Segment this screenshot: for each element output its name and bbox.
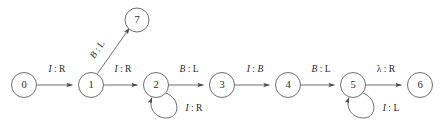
state-label-5: 5 (350, 79, 355, 90)
edge-label-1-to-2: I : R (114, 64, 133, 74)
state-node-5[interactable]: 5 (341, 73, 366, 98)
edge-label-0-to-1: I : R (48, 64, 67, 74)
state-label-3: 3 (219, 79, 224, 90)
automaton-canvas: 0 1 2 3 4 5 6 (0, 0, 447, 122)
edge-label-2-self-loop: I : R (185, 103, 204, 113)
state-label-1: 1 (88, 79, 93, 90)
edge-label-2-to-3: B : L (179, 64, 198, 74)
state-label-0: 0 (21, 79, 26, 90)
edge-label-4-to-5: B : L (311, 64, 330, 74)
states-layer: 0 1 2 3 4 5 6 (12, 8, 433, 98)
state-node-6[interactable]: 6 (408, 73, 433, 98)
edge-label-5-self-loop: I : L (382, 103, 400, 113)
state-node-2[interactable]: 2 (144, 73, 169, 98)
state-node-3[interactable]: 3 (210, 73, 235, 98)
edge-label-1-to-7: B : L (88, 39, 107, 60)
state-node-1[interactable]: 1 (79, 73, 104, 98)
state-label-2: 2 (153, 79, 158, 90)
state-label-6: 6 (417, 79, 422, 90)
state-label-4: 4 (285, 79, 291, 90)
edge-label-5-to-6: λ : R (377, 64, 396, 74)
state-node-0[interactable]: 0 (12, 73, 37, 98)
state-node-4[interactable]: 4 (276, 73, 301, 98)
state-diagram: 0 1 2 3 4 5 6 (0, 0, 447, 122)
edge-label-3-to-4: I : B (246, 64, 264, 74)
state-node-7[interactable]: 7 (125, 8, 149, 32)
state-label-7: 7 (134, 14, 139, 25)
